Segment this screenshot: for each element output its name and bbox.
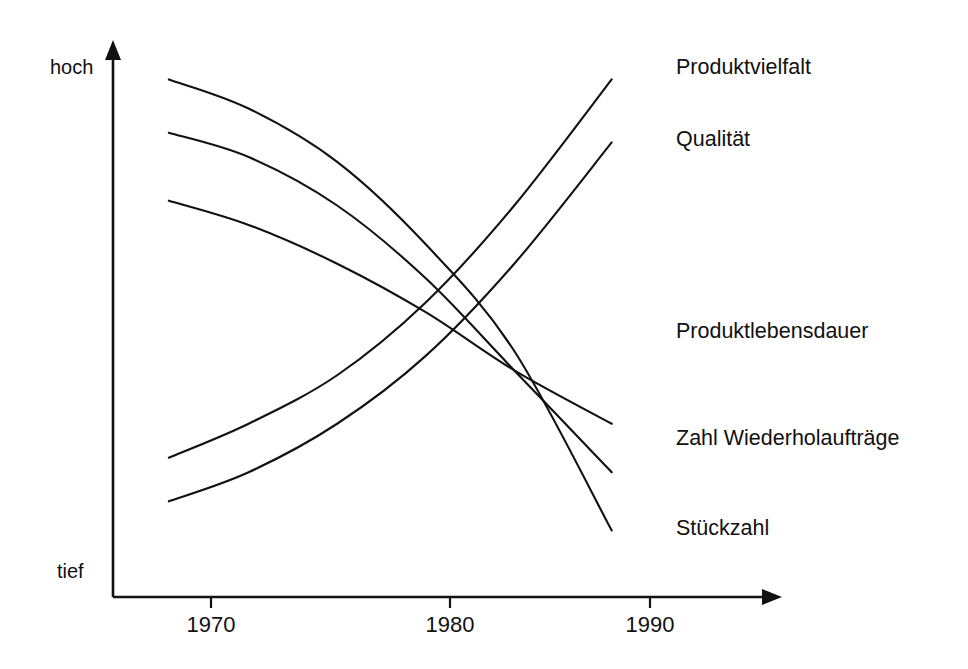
x-tick-label-1970: 1970 [187,614,236,636]
series-line-qualitaet [169,142,612,501]
series-line-produktlebensdauer [169,201,612,424]
series-label-qualitaet: Qualität [676,129,750,151]
series-line-stueckzahl [169,79,612,530]
x-axis-arrow-icon [762,589,782,605]
y-axis-arrow-icon [105,40,121,60]
series-line-produktvielfalt [169,79,612,457]
series-label-stueckzahl: Stückzahl [676,518,769,540]
chart-container: hoch tief 1970 1980 1990 Produktvielfalt… [0,0,968,669]
series-label-produktlebensdauer: Produktlebensdauer [676,321,868,343]
series-line-wiederholauftraege [169,133,612,473]
y-axis-low-label: tief [57,561,84,581]
series-label-wiederholauftraege: Zahl Wiederholaufträge [676,428,899,450]
y-axis-high-label: hoch [50,57,93,77]
x-tick-label-1990: 1990 [626,614,675,636]
series-label-produktvielfalt: Produktvielfalt [676,57,811,79]
x-tick-label-1980: 1980 [426,614,475,636]
